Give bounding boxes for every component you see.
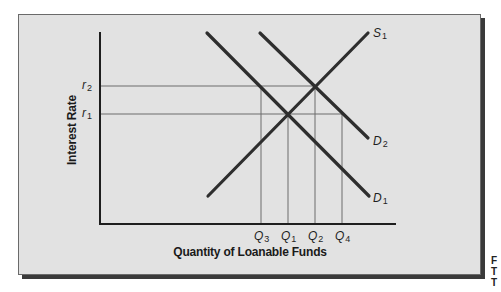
side-text-2: T: [491, 266, 497, 277]
label-d2: D2: [373, 134, 388, 149]
label-d1: D1: [373, 191, 388, 206]
tick-q1: Q1: [281, 229, 296, 244]
tick-r2: r2: [82, 78, 92, 93]
side-text-3: T: [491, 277, 497, 288]
tick-r1: r1: [82, 106, 92, 121]
tick-q4: Q4: [335, 229, 350, 244]
y-axis-label: Interest Rate: [65, 95, 79, 165]
label-s1: S1: [373, 26, 387, 41]
side-text-1: F: [491, 255, 497, 266]
tick-q3: Q3: [254, 229, 269, 244]
x-axis-label: Quantity of Loanable Funds: [173, 245, 326, 259]
tick-q2: Q2: [308, 229, 323, 244]
